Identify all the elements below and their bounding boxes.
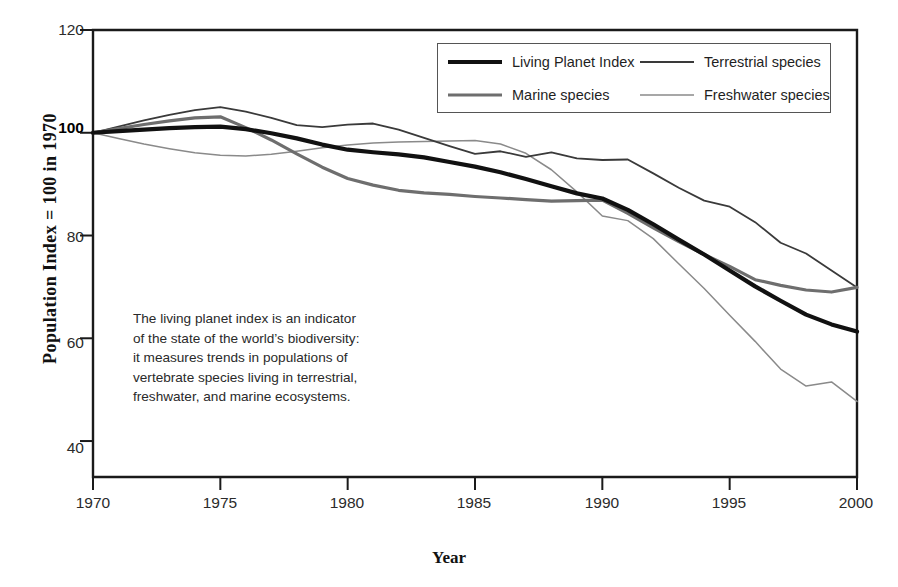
legend-label-freshwater-species: Freshwater species	[704, 87, 830, 103]
annotation-line-3: it measures trends in populations of	[133, 348, 433, 368]
legend-line-icon-living-planet-index	[447, 55, 503, 69]
legend-label-terrestrial-species: Terrestrial species	[704, 54, 821, 70]
x-axis-title: Year	[0, 548, 898, 568]
legend-entry-marine-species: Marine species	[447, 87, 639, 103]
legend-entry-freshwater-species: Freshwater species	[639, 87, 831, 103]
y-axis-ticks	[80, 30, 93, 441]
x-axis-ticks	[93, 477, 857, 490]
annotation-text: The living planet index is an indicator …	[133, 309, 433, 407]
legend-line-icon-marine-species	[447, 88, 503, 102]
annotation-line-5: freshwater, and marine ecosystems.	[133, 387, 433, 407]
legend-label-marine-species: Marine species	[512, 87, 610, 103]
legend-entry-terrestrial-species: Terrestrial species	[639, 54, 831, 70]
legend: Living Planet Index Terrestrial species …	[437, 43, 831, 113]
living-planet-index-chart: Population Index = 100 in 1970 120 100 8…	[0, 0, 898, 587]
series-line-living-planet-index	[93, 127, 857, 332]
legend-line-icon-freshwater-species	[639, 88, 695, 102]
series-line-marine-species	[93, 117, 857, 292]
legend-entry-living-planet-index: Living Planet Index	[447, 54, 639, 70]
legend-line-icon-terrestrial-species	[639, 55, 695, 69]
annotation-line-1: The living planet index is an indicator	[133, 309, 433, 329]
legend-label-living-planet-index: Living Planet Index	[512, 54, 635, 70]
annotation-line-4: vertebrate species living in terrestrial…	[133, 368, 433, 388]
annotation-line-2: of the state of the world’s biodiversity…	[133, 329, 433, 349]
